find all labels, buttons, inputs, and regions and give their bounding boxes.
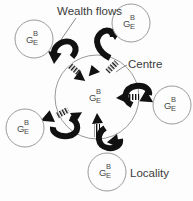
node-e-bottom: E — [171, 104, 176, 113]
wealth-flows-label: Wealth flows — [57, 5, 122, 17]
node-centre-bottom: E — [96, 96, 101, 105]
node-nw-bottom: E — [33, 38, 38, 47]
node-sw-bottom: E — [24, 127, 29, 136]
node-s-top: B — [106, 162, 111, 171]
locality-label: Locality — [130, 167, 169, 179]
node-sw-top: B — [24, 118, 29, 127]
wealth-flows-diagram: G B E G B E G B E G B E G B E G B E Weal… — [0, 0, 193, 201]
node-s-bottom: E — [106, 171, 111, 180]
node-ne-bottom: E — [130, 22, 135, 31]
diagram-canvas: G B E G B E G B E G B E G B E G B E Weal… — [0, 0, 193, 201]
centre-label: Centre — [128, 58, 163, 70]
node-ne-top: B — [130, 13, 135, 22]
node-nw-top: B — [33, 29, 38, 38]
node-centre-top: B — [96, 87, 101, 96]
node-e-top: B — [171, 95, 176, 104]
